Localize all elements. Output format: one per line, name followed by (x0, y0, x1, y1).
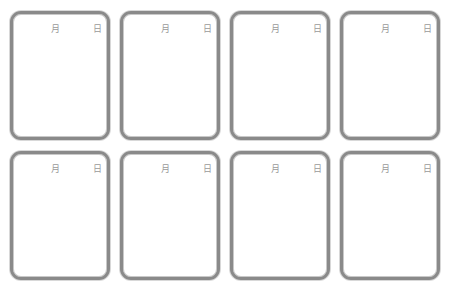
month-label: 月 (51, 22, 60, 35)
month-label: 月 (381, 22, 390, 35)
date-card-8: 月 日 (340, 151, 440, 280)
day-label: 日 (313, 162, 322, 175)
date-card-1: 月 日 (10, 11, 110, 140)
month-label: 月 (271, 162, 280, 175)
date-card-5: 月 日 (10, 151, 110, 280)
date-card-6: 月 日 (120, 151, 220, 280)
date-card-3: 月 日 (230, 11, 330, 140)
day-label: 日 (93, 22, 102, 35)
date-card-2: 月 日 (120, 11, 220, 140)
day-label: 日 (423, 22, 432, 35)
day-label: 日 (423, 162, 432, 175)
day-label: 日 (93, 162, 102, 175)
date-card-4: 月 日 (340, 11, 440, 140)
month-label: 月 (161, 162, 170, 175)
month-label: 月 (271, 22, 280, 35)
month-label: 月 (161, 22, 170, 35)
day-label: 日 (203, 22, 212, 35)
date-card-7: 月 日 (230, 151, 330, 280)
month-label: 月 (381, 162, 390, 175)
day-label: 日 (203, 162, 212, 175)
month-label: 月 (51, 162, 60, 175)
day-label: 日 (313, 22, 322, 35)
